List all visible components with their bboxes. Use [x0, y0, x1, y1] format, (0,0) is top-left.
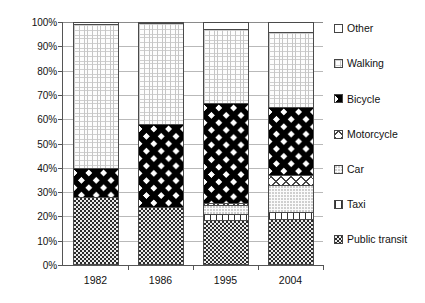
legend-label: Taxi [347, 199, 366, 210]
y-axis-tick-mark [58, 119, 63, 120]
bar-segment-motorcycle-2004 [268, 175, 314, 185]
x-axis-tick-mark [323, 265, 324, 270]
x-axis-tick-label-2004: 2004 [279, 274, 302, 286]
legend-label: Other [347, 23, 373, 34]
bar-segment-walking-1982 [73, 24, 119, 167]
bar-segment-walking-1986 [138, 23, 184, 124]
legend-item-walking[interactable]: Walking [334, 59, 424, 68]
y-axis-tick-label: 60% [37, 114, 57, 125]
bar-segment-taxi-1995 [203, 214, 249, 220]
bar-segment-bicycle-1982 [73, 168, 119, 197]
x-axis-tick-label-1982: 1982 [84, 274, 107, 286]
legend-swatch-icon-bicycle [334, 94, 343, 103]
y-axis-tick-label: 40% [37, 162, 57, 173]
y-axis-tick-mark [58, 95, 63, 96]
bar-segment-other-2004 [268, 22, 314, 32]
legend-label: Public transit [347, 234, 407, 245]
legend-swatch-icon-motorcycle [334, 130, 343, 139]
legend-item-motorcycle[interactable]: Motorcycle [334, 130, 424, 139]
y-axis-tick-label: 70% [37, 89, 57, 100]
y-axis-tick-mark [58, 241, 63, 242]
legend-swatch-icon-car [334, 165, 343, 174]
y-axis-tick-mark [58, 71, 63, 72]
y-axis-tick-mark [58, 216, 63, 217]
legend-label: Walking [347, 58, 384, 69]
bar-1986 [138, 22, 184, 265]
y-axis-tick-mark [58, 22, 63, 23]
bar-2004 [268, 22, 314, 265]
bar-1995 [203, 22, 249, 265]
y-axis-tick-label: 30% [37, 187, 57, 198]
y-axis-tick-label: 50% [37, 138, 57, 149]
chart-legend: OtherWalkingBicycleMotorcycleCarTaxiPubl… [334, 24, 424, 270]
bar-segment-car-2004 [268, 185, 314, 212]
legend-item-other[interactable]: Other [334, 24, 424, 33]
bar-segment-car-1995 [203, 205, 249, 214]
legend-item-public-transit[interactable]: Public transit [334, 235, 424, 244]
y-axis-tick-label: 90% [37, 41, 57, 52]
legend-label: Motorcycle [347, 129, 398, 140]
y-axis-tick-label: 20% [37, 211, 57, 222]
legend-item-taxi[interactable]: Taxi [334, 200, 424, 209]
legend-item-bicycle[interactable]: Bicycle [334, 94, 424, 103]
legend-swatch-icon-walking [334, 59, 343, 68]
bar-segment-other-1982 [73, 22, 119, 24]
bar-segment-other-1995 [203, 22, 249, 29]
bar-segment-bicycle-1995 [203, 103, 249, 203]
bar-segment-motorcycle-1995 [203, 203, 249, 205]
legend-swatch-icon-taxi [334, 200, 343, 209]
bar-1982 [73, 22, 119, 265]
bar-segment-public-transit-2004 [268, 219, 314, 265]
x-axis-tick-label-1995: 1995 [214, 274, 237, 286]
bar-segment-public-transit-1986 [138, 207, 184, 265]
bar-segment-public-transit-1995 [203, 220, 249, 265]
bar-segment-bicycle-2004 [268, 107, 314, 175]
x-axis-tick-mark [258, 265, 259, 270]
y-axis-tick-mark [58, 46, 63, 47]
legend-label: Bicycle [347, 94, 380, 105]
y-axis-tick-mark [58, 192, 63, 193]
y-axis-tick-label: 100% [32, 17, 57, 28]
y-axis-tick-label: 0% [43, 260, 57, 271]
y-axis-tick-label: 10% [37, 235, 57, 246]
y-axis-tick-mark [58, 168, 63, 169]
x-axis-tick-mark [193, 265, 194, 270]
legend-swatch-icon-public-transit [334, 235, 343, 244]
bar-segment-public-transit-1982 [73, 197, 119, 265]
y-axis-tick-mark [58, 265, 63, 266]
bar-segment-walking-1995 [203, 29, 249, 103]
legend-label: Car [347, 164, 364, 175]
legend-swatch-icon-other [334, 24, 343, 33]
bar-segment-other-1986 [138, 22, 184, 23]
y-axis-tick-label: 80% [37, 65, 57, 76]
bar-segment-bicycle-1986 [138, 124, 184, 207]
x-axis-tick-mark [128, 265, 129, 270]
legend-item-car[interactable]: Car [334, 165, 424, 174]
x-axis-tick-label-1986: 1986 [149, 274, 172, 286]
y-axis-tick-mark [58, 144, 63, 145]
bar-segment-taxi-2004 [268, 212, 314, 219]
plot-area: 0%10%20%30%40%50%60%70%80%90%100%1982198… [62, 22, 323, 266]
stacked-bar-chart: 0%10%20%30%40%50%60%70%80%90%100%1982198… [0, 0, 425, 303]
bar-segment-walking-2004 [268, 32, 314, 107]
